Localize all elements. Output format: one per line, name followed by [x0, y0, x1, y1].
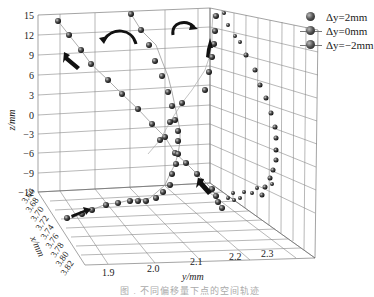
z-tick: −9: [23, 168, 34, 179]
curved-arrow-left-icon: [104, 31, 136, 44]
sphere-line-marker-icon: [300, 38, 322, 52]
z-tick: 0: [29, 110, 34, 121]
legend-label: Δy=0mm: [326, 25, 367, 37]
svg-text:1.9: 1.9: [102, 267, 115, 278]
x-axis: 3.66 3.68 3.70 3.72 3.74 3.76 3.78 3.80 …: [19, 186, 75, 277]
z-tick: 12: [24, 30, 34, 41]
chart-legend: Δy=2mm Δy=0mm Δy=−2mm: [300, 10, 374, 52]
svg-text:2.3: 2.3: [261, 248, 274, 259]
z-tick: −6: [23, 148, 34, 159]
legend-label: Δy=−2mm: [326, 39, 374, 51]
sphere-marker-icon: [300, 10, 322, 24]
z-axis: 15 12 9 6 3 0 −3 −6 −9 −12 z/mm: [6, 10, 34, 198]
figure-caption: 图 . 不同偏移量下点的空间轨迹: [80, 284, 300, 297]
z-tick: 3: [29, 90, 34, 101]
rotation-arrows: [104, 23, 194, 44]
legend-label: Δy=2mm: [326, 11, 367, 23]
arrowhead-icon: [99, 36, 108, 44]
z-tick: 6: [29, 70, 34, 81]
svg-text:2.0: 2.0: [147, 263, 160, 274]
legend-item-dy-minus2: Δy=−2mm: [300, 38, 374, 52]
svg-text:2.1: 2.1: [190, 256, 203, 267]
y-axis: 1.9 2.0 2.1 2.2 2.3 y/mm: [102, 248, 274, 282]
y-axis-label: y/mm: [181, 271, 204, 282]
z-tick: −3: [23, 129, 34, 140]
z-tick: 15: [24, 10, 34, 21]
legend-item-dy-0: Δy=0mm: [300, 24, 374, 38]
sphere-line-marker-icon: [300, 24, 322, 38]
svg-text:2.2: 2.2: [229, 251, 242, 262]
arrow-up-left-icon: [63, 52, 80, 70]
z-tick: 9: [29, 50, 34, 61]
legend-item-dy-2: Δy=2mm: [300, 10, 374, 24]
z-axis-label: z/mm: [6, 109, 17, 131]
